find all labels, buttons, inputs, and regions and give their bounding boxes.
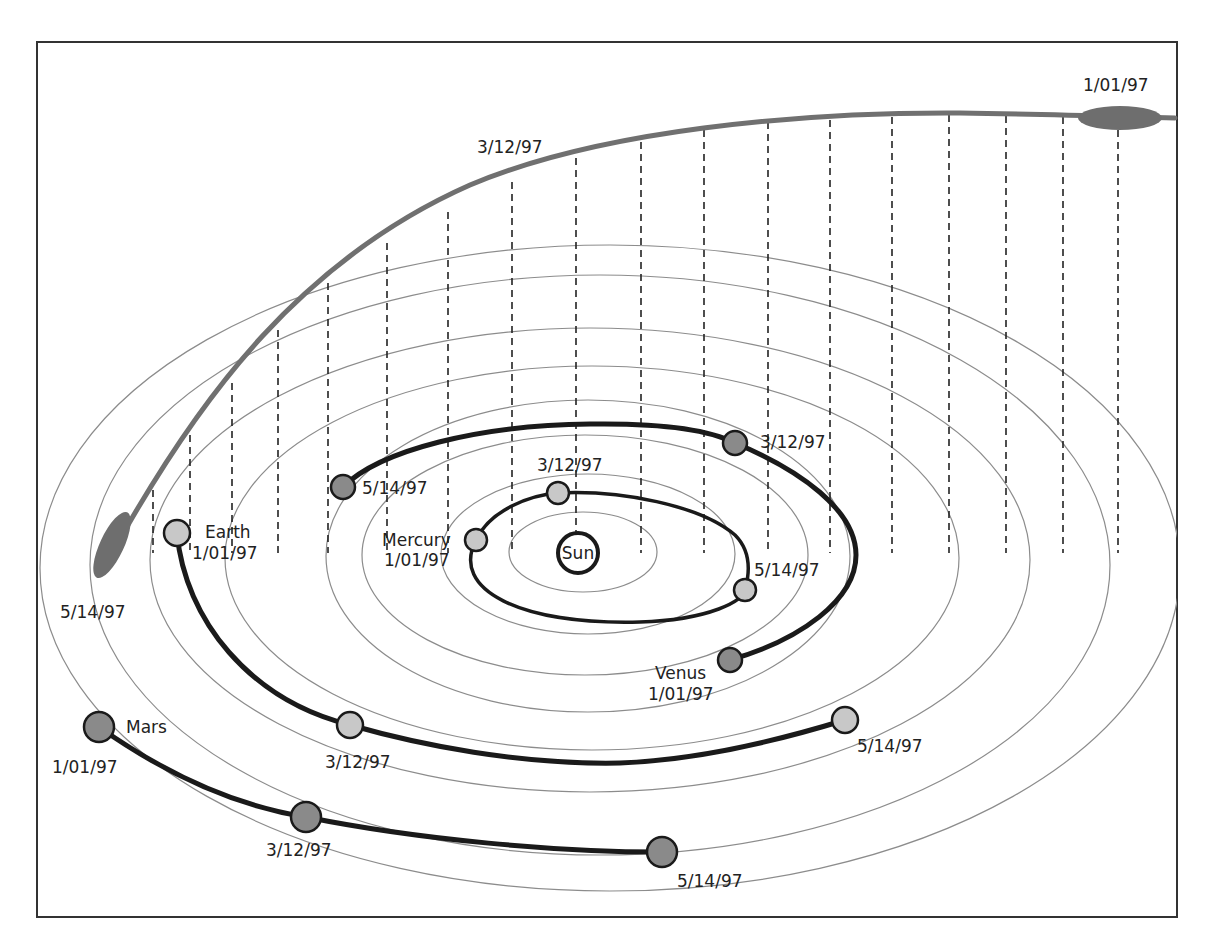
mercury-label-d2: 3/12/97: [537, 455, 603, 475]
earth-name: Earth: [205, 522, 251, 542]
venus-label-d2: 3/12/97: [760, 432, 826, 452]
mars-position-d3: [647, 837, 677, 867]
mars-name: Mars: [126, 717, 167, 737]
mercury-position-d3: [734, 579, 756, 601]
mercury-label-d3: 5/14/97: [754, 560, 820, 580]
comet-body-jan: [1078, 106, 1162, 130]
mars-label-d2: 3/12/97: [266, 840, 332, 860]
comet-body-may: [86, 507, 138, 582]
venus-position-d1: [718, 648, 742, 672]
orbit-ring-8: [40, 245, 1180, 891]
venus-position-d2: [723, 431, 747, 455]
mercury-name: Mercury: [382, 530, 451, 550]
mercury-position-d2: [547, 482, 569, 504]
comet-path: [128, 113, 1175, 525]
mars-label-d3: 5/14/97: [677, 871, 743, 891]
earth-label-d1: 1/01/97: [192, 543, 258, 563]
mercury-position-d1: [465, 529, 487, 551]
earth-position-d2: [337, 712, 363, 738]
mars-position-d2: [291, 802, 321, 832]
comet-label-d2: 3/12/97: [477, 137, 543, 157]
earth: Earth 1/01/97 3/12/97 5/14/97: [164, 520, 923, 772]
venus-position-d3: [331, 475, 355, 499]
venus-label-d1: 1/01/97: [648, 684, 714, 704]
venus-name: Venus: [655, 663, 706, 683]
orbit-rings: [40, 245, 1180, 891]
venus-label-d3: 5/14/97: [362, 478, 428, 498]
sun: Sun: [558, 533, 598, 573]
earth-label-d2: 3/12/97: [325, 752, 391, 772]
earth-orbit: [177, 533, 845, 763]
mercury-label-d1: 1/01/97: [384, 550, 450, 570]
mars-position-d1: [84, 712, 114, 742]
mars-label-d1: 1/01/97: [52, 757, 118, 777]
earth-label-d3: 5/14/97: [857, 736, 923, 756]
sun-label: Sun: [562, 543, 594, 563]
earth-position-d1: [164, 520, 190, 546]
comet-label-d3: 5/14/97: [60, 602, 126, 622]
solar-system-diagram: 1/01/97 3/12/97 5/14/97 Mercury 1/01/97 …: [0, 0, 1213, 948]
earth-position-d3: [832, 707, 858, 733]
orbit-ring-7: [90, 275, 1110, 855]
projection-dashes: [153, 115, 1118, 553]
comet-label-d1: 1/01/97: [1083, 75, 1149, 95]
mars-orbit: [99, 727, 662, 852]
